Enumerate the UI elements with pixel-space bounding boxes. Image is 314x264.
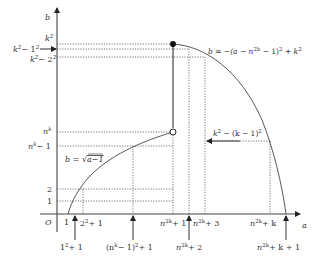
x-label-n2k-plus3: n2k+ 3 [193, 218, 219, 228]
sqrt-curve-label: b = √a−1 [65, 155, 104, 164]
open-endpoint [170, 129, 176, 135]
y-axis-label: b [45, 13, 50, 22]
annotation-k2-minus-km1sq: k2 − (k − 1)2 [213, 128, 262, 138]
x-label-n2k-plus-k: n2k+ k [250, 218, 276, 228]
y-label-k2: k2 [45, 33, 54, 43]
y-label-nk: nk [43, 126, 52, 136]
x-label-1sq-plus1: 12+ 1 [60, 242, 83, 252]
function-diagram: b a O k2 k2− 12 k2− 22 nk nk− 1 2 1 1 22… [0, 0, 314, 264]
x-axis-label: a [302, 221, 307, 230]
x-label-one: 1 [64, 218, 69, 227]
parabola-curve-label: b = −(a − n2k − 1)2 + k2 [208, 46, 302, 56]
sqrt-curve [68, 132, 173, 214]
y-label-nk-minus-1: nk− 1 [28, 141, 51, 151]
x-label-n2k-plus-k-plus1: n2k+ k + 1 [257, 242, 300, 252]
x-label-2sq-plus1: 22+ 1 [80, 218, 103, 228]
origin-label: O [45, 218, 52, 227]
y-label-two: 2 [47, 185, 52, 194]
filled-endpoint [170, 41, 176, 47]
x-label-n2k-plus2: n2k+ 2 [176, 242, 202, 252]
x-label-n2k-plus1: n2k+ 1 [160, 218, 186, 228]
y-label-k2-minus-2sq: k2− 22 [30, 54, 57, 64]
y-label-one: 1 [47, 197, 52, 206]
x-label-nk-m1-sq-plus1: (nk− 1)2+ 1 [106, 242, 153, 252]
y-label-k2-minus-1sq: k2− 12 [13, 44, 40, 54]
